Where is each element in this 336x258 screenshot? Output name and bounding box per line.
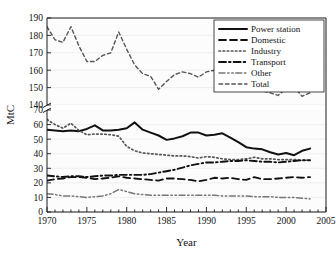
y-tick-label: 10 bbox=[34, 193, 44, 203]
y-tick-label: 20 bbox=[34, 178, 44, 188]
x-axis-title: Year bbox=[176, 236, 197, 248]
y-tick-label: 190 bbox=[29, 13, 44, 23]
legend-label-industry: Industry bbox=[251, 46, 281, 56]
y-tick-label: 50 bbox=[34, 135, 44, 145]
x-tick-label: 1980 bbox=[117, 216, 136, 226]
y-axis-title: MtC bbox=[4, 105, 16, 125]
legend-label-total: Total bbox=[251, 79, 270, 89]
x-tick-label: 1990 bbox=[197, 216, 216, 226]
x-tick-label: 1985 bbox=[157, 216, 176, 226]
x-tick-label: 1975 bbox=[77, 216, 96, 226]
legend-label-transport: Transport bbox=[251, 57, 286, 67]
legend-label-other: Other bbox=[251, 68, 272, 78]
x-tick-label: 2005 bbox=[317, 216, 336, 226]
x-tick-label: 2000 bbox=[277, 216, 296, 226]
x-tick-label: 1995 bbox=[237, 216, 256, 226]
chart-container: 0102030405060701401501601701801901970197… bbox=[0, 0, 336, 258]
y-tick-label: 40 bbox=[34, 149, 44, 159]
y-tick-label: 180 bbox=[29, 31, 44, 41]
y-tick-label: 60 bbox=[34, 120, 44, 130]
x-tick-label: 1970 bbox=[38, 216, 57, 226]
y-tick-label: 140 bbox=[29, 100, 44, 110]
legend-label-power-station: Power station bbox=[251, 24, 301, 34]
line-chart: 0102030405060701401501601701801901970197… bbox=[0, 0, 336, 258]
y-tick-label: 170 bbox=[29, 48, 44, 58]
chart-legend: Power stationDomesticIndustryTransportOt… bbox=[214, 20, 324, 92]
y-tick-label: 150 bbox=[29, 83, 44, 93]
y-tick-label: 160 bbox=[29, 66, 44, 76]
legend-label-domestic: Domestic bbox=[251, 35, 286, 45]
y-tick-label: 30 bbox=[34, 164, 44, 174]
